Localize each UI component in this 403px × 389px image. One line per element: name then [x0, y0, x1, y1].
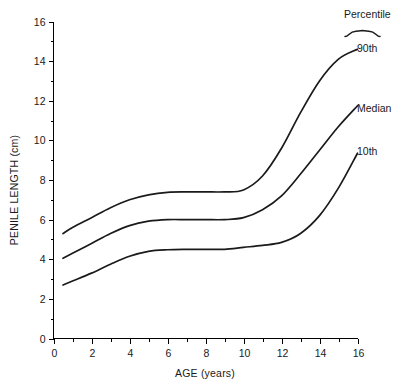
x-tick-label: 6 — [166, 347, 172, 359]
y-tick-label: 8 — [40, 174, 46, 186]
penile-length-growth-chart: 0246810121416 0246810121416 Percentile 9… — [0, 0, 403, 389]
x-tick-label: 16 — [353, 347, 365, 359]
x-tick-label: 12 — [277, 347, 289, 359]
x-tick-label: 10 — [239, 347, 251, 359]
y-tick-label: 0 — [40, 333, 46, 345]
x-tick-group: 0246810121416 — [52, 339, 365, 359]
legend-title: Percentile — [344, 8, 391, 20]
y-tick-label: 6 — [40, 214, 46, 226]
y-tick-label: 2 — [40, 293, 46, 305]
x-axis-title: AGE (years) — [175, 367, 235, 379]
series-curve-90th — [63, 49, 358, 233]
y-tick-label: 14 — [34, 55, 46, 67]
x-tick-label: 2 — [90, 347, 96, 359]
series-curve-median — [63, 106, 358, 259]
y-tick-label: 16 — [34, 16, 46, 28]
y-tick-label: 4 — [40, 253, 46, 265]
series-label-median: Median — [357, 102, 392, 114]
y-tick-label: 12 — [34, 95, 46, 107]
y-tick-label: 10 — [34, 134, 46, 146]
x-tick-label: 14 — [315, 347, 327, 359]
series-group — [63, 49, 358, 285]
chart-canvas: 0246810121416 0246810121416 Percentile 9… — [0, 0, 403, 389]
series-label-10th: 10th — [357, 145, 378, 157]
percentile-brace-icon — [345, 30, 380, 36]
x-tick-label: 4 — [128, 347, 134, 359]
y-axis-title: PENILE LENGTH (cm) — [8, 135, 20, 245]
axes-group — [54, 22, 358, 339]
x-tick-label: 8 — [204, 347, 210, 359]
series-label-90th: 90th — [357, 42, 378, 54]
y-tick-group: 0246810121416 — [34, 16, 54, 345]
x-tick-label: 0 — [52, 347, 58, 359]
